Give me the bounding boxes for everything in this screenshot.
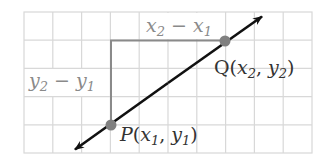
point-p (106, 120, 117, 131)
slope-diagram: x2−x1 y2−y1 Q(x2, y2) P(x1, y1) (0, 0, 318, 168)
run-label: x2−x1 (146, 14, 212, 39)
point-p-label: P(x1, y1) (119, 123, 198, 148)
point-q (220, 36, 231, 47)
rise-label: y2−y1 (28, 69, 95, 94)
